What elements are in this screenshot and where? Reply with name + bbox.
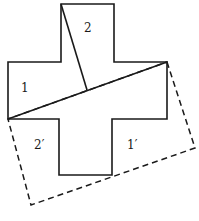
cut-line-long: [8, 62, 167, 119]
label-piece-2-prime: 2′: [34, 139, 44, 151]
cross-dissection-diagram: 2 1 2′ 1′: [0, 0, 199, 221]
cut-line-short: [61, 4, 87, 90]
label-piece-1-prime: 1′: [127, 139, 137, 151]
label-piece-2: 2: [84, 22, 92, 34]
label-piece-1: 1: [21, 82, 29, 94]
diagram-canvas: [0, 0, 199, 221]
